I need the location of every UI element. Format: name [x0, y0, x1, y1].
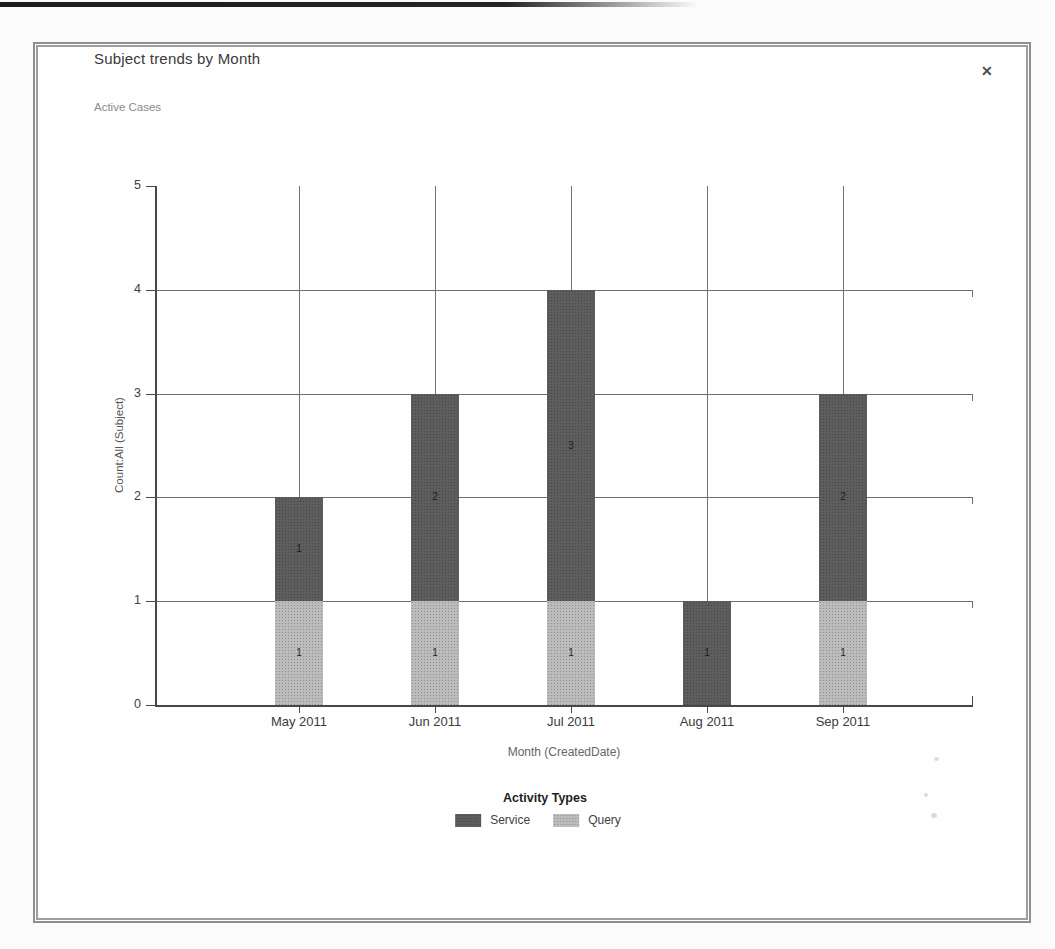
- x-tick: [571, 705, 572, 713]
- y-tick-label: 4: [107, 282, 141, 296]
- y-axis-title: Count:All (Subject): [113, 397, 125, 493]
- gridline-right-tick: [972, 290, 973, 297]
- dialog-title: Subject trends by Month: [94, 50, 260, 67]
- bar-value-label: 1: [275, 647, 323, 658]
- x-tick-label: Aug 2011: [647, 714, 767, 729]
- bar-value-label: 1: [411, 647, 459, 658]
- bar-value-label: 1: [819, 647, 867, 658]
- close-icon[interactable]: ✕: [974, 58, 1000, 84]
- x-axis-right-tick: [972, 696, 973, 705]
- legend-title: Activity Types: [503, 791, 587, 805]
- chart-view-name: Active Cases: [94, 101, 161, 113]
- legend-label-query: Query: [588, 813, 621, 827]
- x-axis-title: Month (CreatedDate): [508, 745, 621, 759]
- x-tick-label: May 2011: [239, 714, 359, 729]
- bar-value-label: 1: [275, 543, 323, 554]
- x-tick: [435, 705, 436, 713]
- legend-items: Service Query: [455, 813, 635, 827]
- x-tick-label: Jun 2011: [375, 714, 495, 729]
- scanned-page: Subject trends by Month ✕ Active Cases 1…: [0, 0, 1055, 949]
- x-tick: [707, 705, 708, 713]
- y-tick: [146, 186, 155, 187]
- x-tick-label: Sep 2011: [783, 714, 903, 729]
- y-tick: [146, 497, 155, 498]
- y-tick: [146, 601, 155, 602]
- y-tick-label: 5: [107, 178, 141, 192]
- bar-value-label: 1: [547, 647, 595, 658]
- legend-swatch-service: [455, 814, 481, 827]
- bar-value-label: 2: [819, 491, 867, 502]
- x-tick: [843, 705, 844, 713]
- y-tick: [146, 290, 155, 291]
- stacked-bar-chart: 111213112012345May 2011Jun 2011Jul 2011A…: [0, 0, 1055, 949]
- bar-value-label: 3: [547, 440, 595, 451]
- y-tick-label: 0: [107, 697, 141, 711]
- x-axis-line: [155, 705, 973, 707]
- legend-label-service: Service: [490, 813, 530, 827]
- gridline-right-tick: [972, 394, 973, 401]
- y-tick: [146, 705, 155, 706]
- bar-value-label: 2: [411, 491, 459, 502]
- y-axis-line: [155, 186, 157, 705]
- x-tick: [299, 705, 300, 713]
- y-tick: [146, 394, 155, 395]
- bar-value-label: 1: [683, 647, 731, 658]
- gridline-right-tick: [972, 601, 973, 608]
- y-tick-label: 1: [107, 593, 141, 607]
- x-tick-label: Jul 2011: [511, 714, 631, 729]
- legend-swatch-query: [553, 814, 579, 827]
- gridline-right-tick: [972, 497, 973, 504]
